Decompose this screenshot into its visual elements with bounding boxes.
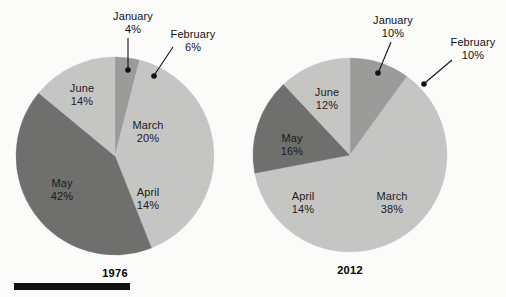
- slice-label-june-1976: June14%: [70, 82, 94, 108]
- leader-line-february-2012: [426, 60, 452, 82]
- slice-label-april-1976: April14%: [137, 186, 160, 212]
- slice-label-name: June: [70, 82, 94, 95]
- leader-dot-february-2012: [421, 81, 427, 87]
- slice-label-value: 14%: [292, 203, 315, 216]
- callout-label-value: 6%: [171, 41, 216, 54]
- callout-label-value: 4%: [113, 23, 153, 36]
- chart-title-1976: 1976: [102, 267, 128, 279]
- footer-rule-bar: [14, 283, 130, 290]
- slice-label-march-2012: March38%: [376, 190, 407, 216]
- slice-label-name: May: [51, 177, 73, 190]
- callout-label-name: January: [373, 14, 413, 27]
- callout-label-name: February: [451, 36, 496, 49]
- callout-label-name: January: [113, 10, 153, 23]
- pie-1976: [16, 57, 214, 255]
- leader-dot-january-1976: [125, 67, 131, 73]
- slice-label-value: 38%: [376, 203, 407, 216]
- slice-label-value: 14%: [70, 95, 94, 108]
- slice-label-may-1976: May42%: [51, 177, 73, 203]
- slice-label-name: March: [376, 190, 407, 203]
- slice-label-june-2012: June12%: [315, 86, 339, 112]
- chart-title-2012: 2012: [337, 264, 363, 276]
- slice-label-may-2012: May16%: [281, 132, 303, 158]
- callout-label-value: 10%: [451, 49, 496, 62]
- slice-label-value: 12%: [315, 99, 339, 112]
- callout-label-name: February: [171, 28, 216, 41]
- callout-label-february-1976: February6%: [171, 28, 216, 54]
- pie-chart-canvas: [0, 0, 506, 297]
- slice-label-value: 16%: [281, 145, 303, 158]
- callout-label-january-2012: January10%: [373, 14, 413, 40]
- callout-label-january-1976: January4%: [113, 10, 153, 36]
- callout-label-value: 10%: [373, 27, 413, 40]
- slice-label-name: May: [281, 132, 303, 145]
- slice-label-value: 42%: [51, 190, 73, 203]
- slice-label-april-2012: April14%: [292, 190, 315, 216]
- pie-chart-figure: March20%April14%May42%June14%January4%Fe…: [0, 0, 506, 297]
- leader-dot-january-2012: [375, 70, 381, 76]
- callout-label-february-2012: February10%: [451, 36, 496, 62]
- slice-label-value: 20%: [132, 132, 163, 145]
- slice-label-value: 14%: [137, 199, 160, 212]
- leader-dot-february-1976: [151, 73, 157, 79]
- slice-label-march-1976: March20%: [132, 119, 163, 145]
- slice-label-name: April: [292, 190, 315, 203]
- slice-label-name: June: [315, 86, 339, 99]
- slice-label-name: March: [132, 119, 163, 132]
- slice-label-name: April: [137, 186, 160, 199]
